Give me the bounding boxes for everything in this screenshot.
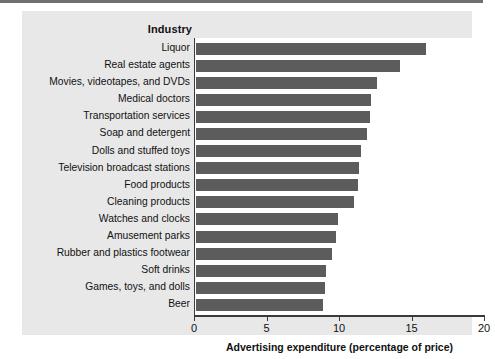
category-label: Dolls and stuffed toys [46, 143, 190, 160]
bar [196, 162, 360, 174]
bar [196, 231, 337, 243]
category-label: Liquor [46, 40, 190, 57]
bar-row [196, 228, 486, 245]
bar [196, 299, 324, 311]
x-tick-label: 0 [174, 322, 214, 334]
bar [196, 60, 400, 72]
bar [196, 77, 377, 89]
bar-series [196, 40, 486, 315]
bar [196, 111, 370, 123]
bar-row [196, 40, 486, 57]
category-label: Watches and clocks [46, 211, 190, 228]
page-top-rule [0, 0, 483, 3]
category-label: Soft drinks [46, 262, 190, 279]
bar-row [196, 279, 486, 296]
bar-row [196, 125, 486, 142]
bar [196, 265, 327, 277]
category-column-header: Industry [52, 23, 192, 35]
bar-row [196, 108, 486, 125]
x-tick-mark [194, 315, 195, 321]
x-tick-label: 5 [247, 322, 287, 334]
category-label: Cleaning products [46, 194, 190, 211]
bar [196, 94, 371, 106]
bar-row [196, 143, 486, 160]
bar-row [196, 160, 486, 177]
category-label: Beer [46, 296, 190, 313]
bar [196, 213, 338, 225]
category-label: Real estate agents [46, 57, 190, 74]
x-tick-label: 10 [319, 322, 359, 334]
bar-row [196, 211, 486, 228]
x-tick-mark [267, 315, 268, 321]
bar [196, 196, 354, 208]
bar [196, 43, 427, 55]
category-label: Amusement parks [46, 228, 190, 245]
category-label: Medical doctors [46, 91, 190, 108]
category-label: Games, toys, and dolls [46, 279, 190, 296]
bar-row [196, 91, 486, 108]
category-label: Movies, videotapes, and DVDs [46, 74, 190, 91]
category-label: Food products [46, 177, 190, 194]
bar-row [196, 74, 486, 91]
bar [196, 248, 332, 260]
bar [196, 145, 361, 157]
bar [196, 282, 325, 294]
x-tick-mark [339, 315, 340, 321]
x-tick-mark [484, 315, 485, 321]
bar [196, 179, 358, 191]
category-label-column: LiquorReal estate agentsMovies, videotap… [46, 40, 190, 314]
bar [196, 128, 367, 140]
bar-row [196, 177, 486, 194]
category-label: Transportation services [46, 108, 190, 125]
x-tick-label: 20 [464, 322, 495, 334]
bar-row [196, 262, 486, 279]
bar-row [196, 245, 486, 262]
bar-row [196, 57, 486, 74]
bar-row [196, 296, 486, 313]
x-tick-label: 15 [392, 322, 432, 334]
category-label: Rubber and plastics footwear [46, 245, 190, 262]
x-axis-title: Advertising expenditure (percentage of p… [194, 341, 485, 353]
category-label: Soap and detergent [46, 125, 190, 142]
chart-figure-panel: Industry LiquorReal estate agentsMovies,… [22, 11, 472, 335]
bar-row [196, 194, 486, 211]
x-tick-mark [412, 315, 413, 321]
category-label: Television broadcast stations [46, 160, 190, 177]
